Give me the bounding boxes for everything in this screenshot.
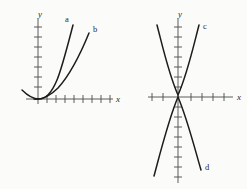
right-plot-curve-d [154, 97, 201, 176]
left-plot: y x a b [22, 9, 120, 104]
right-plot-x-axis-label: x [236, 92, 241, 102]
left-plot-x-axis-label: x [115, 94, 120, 104]
left-plot-y-axis-label: y [37, 9, 42, 19]
right-plot-curve-c-label: c [203, 21, 207, 31]
math-figure-two-graphs: y x a b [0, 0, 247, 189]
left-plot-curve-a-label: a [65, 14, 69, 24]
right-plot: y x c d [148, 9, 241, 183]
left-plot-curve-b-label: b [93, 24, 97, 34]
right-plot-y-axis-label: y [177, 9, 182, 19]
right-plot-curve-d-label: d [205, 162, 210, 172]
left-plot-curve-a [22, 25, 73, 99]
